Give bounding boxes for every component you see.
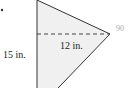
height-label: 15 in. [3, 49, 26, 60]
angle-label: 90 [116, 24, 124, 33]
bullet-dot [1, 9, 3, 11]
triangle-diagram: 12 in. 15 in. 90 [0, 0, 128, 88]
base-label: 12 in. [60, 40, 83, 51]
